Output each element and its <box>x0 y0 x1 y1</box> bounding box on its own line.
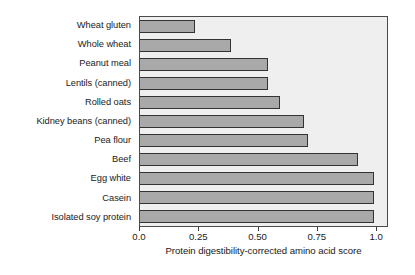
bar <box>139 172 374 185</box>
y-axis-tick-label: Peanut meal <box>0 54 135 73</box>
y-axis-tick-label: Beef <box>0 150 135 169</box>
bar <box>139 58 268 71</box>
bar <box>139 96 280 109</box>
y-axis-tick-label: Lentils (canned) <box>0 74 135 93</box>
x-axis-tick-label: 0.50 <box>248 231 267 243</box>
bar <box>139 191 374 204</box>
x-axis-tick-label: 1.0 <box>369 231 382 243</box>
x-axis: 0.00.250.500.751.0 <box>139 227 388 243</box>
y-axis-tick-label: Egg white <box>0 170 135 189</box>
x-axis-tick-label: 0.75 <box>308 231 327 243</box>
bar-row <box>140 93 387 112</box>
y-axis-tick-label: Wheat gluten <box>0 16 135 35</box>
x-axis-tick-label: 0.25 <box>189 231 208 243</box>
bar-row <box>140 36 387 55</box>
y-axis-tick-label: Whole wheat <box>0 35 135 54</box>
bar-row <box>140 169 387 188</box>
y-axis-tick-label: Casein <box>0 189 135 208</box>
bar-row <box>140 74 387 93</box>
bar-series <box>140 17 387 226</box>
bar <box>139 153 358 166</box>
bar <box>139 20 195 33</box>
bar <box>139 210 374 223</box>
bar <box>139 39 231 52</box>
plot-area <box>139 16 388 227</box>
x-axis-title: Protein digestibility-corrected amino ac… <box>139 245 388 256</box>
bar-row <box>140 112 387 131</box>
bar-row <box>140 150 387 169</box>
bar-row <box>140 17 387 36</box>
bar <box>139 77 268 90</box>
y-axis-tick-label: Pea flour <box>0 131 135 150</box>
bar-row <box>140 207 387 226</box>
bar <box>139 115 304 128</box>
chart-figure: Wheat glutenWhole wheatPeanut mealLentil… <box>0 0 415 275</box>
y-axis-tick-label: Isolated soy protein <box>0 208 135 227</box>
y-axis-tick-label: Kidney beans (canned) <box>0 112 135 131</box>
x-axis-tick-label: 0.0 <box>132 231 145 243</box>
bar <box>139 134 308 147</box>
y-axis-category-labels: Wheat glutenWhole wheatPeanut mealLentil… <box>0 16 135 227</box>
bar-row <box>140 188 387 207</box>
bar-row <box>140 131 387 150</box>
bar-row <box>140 55 387 74</box>
y-axis-tick-label: Rolled oats <box>0 93 135 112</box>
